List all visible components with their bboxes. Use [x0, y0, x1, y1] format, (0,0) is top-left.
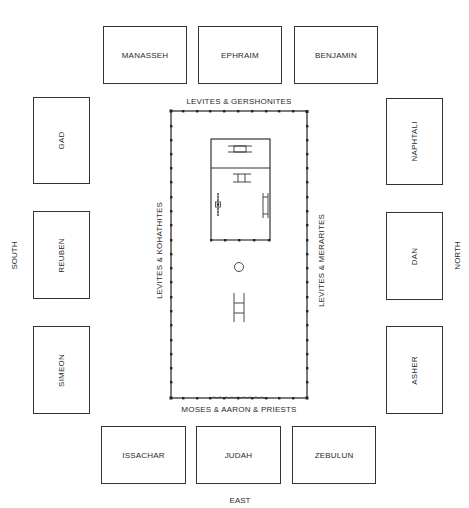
tribe-label: REUBEN [57, 238, 66, 273]
tribe-box-asher: ASHER [386, 326, 443, 414]
direction-south: SOUTH [10, 241, 19, 269]
levites-south-label-wrap: LEVITES & KOHATHITES [155, 180, 165, 320]
tribe-box-naphtali: NAPHTALI [386, 98, 443, 185]
altar-of-burnt-offering [234, 293, 244, 322]
levites-north-label: LEVITES & MERARITES [318, 213, 327, 306]
courtyard-fence [171, 111, 307, 398]
tribe-box-benjamin: BENJAMIN [294, 26, 378, 84]
tribe-box-gad: GAD [33, 97, 90, 184]
levites-west-label: LEVITES & GERSHONITES [171, 97, 307, 106]
altar-of-incense [233, 174, 251, 182]
direction-east: EAST [200, 496, 280, 505]
table-of-showbread [263, 193, 268, 218]
tribe-label: SIMEON [57, 354, 66, 387]
ark-of-covenant [228, 146, 252, 152]
direction-north: NORTH [453, 241, 462, 269]
tribe-box-reuben: REUBEN [33, 211, 90, 299]
levites-east-label: MOSES & AARON & PRIESTS [171, 405, 307, 414]
laver [235, 263, 244, 272]
tribe-box-manasseh: MANASSEH [103, 26, 187, 84]
tribe-label: EPHRAIM [221, 51, 259, 60]
tribe-label: ZEBULUN [315, 451, 354, 460]
tribe-box-issachar: ISSACHAR [101, 426, 186, 484]
direction-south-wrap: SOUTH [8, 235, 20, 275]
levites-north-label-wrap: LEVITES & MERARITES [317, 190, 327, 330]
tribe-box-ephraim: EPHRAIM [198, 26, 282, 84]
tribe-label: DAN [410, 247, 419, 265]
tribe-label: NAPHTALI [410, 121, 419, 161]
direction-north-wrap: NORTH [451, 235, 463, 275]
levites-south-label: LEVITES & KOHATHITES [156, 201, 165, 298]
tribe-label: GAD [57, 132, 66, 150]
tribe-box-simeon: SIMEON [33, 326, 90, 414]
tribe-box-dan: DAN [386, 212, 443, 300]
tribe-label: BENJAMIN [315, 51, 357, 60]
tribe-label: ASHER [410, 356, 419, 385]
tribe-box-zebulun: ZEBULUN [292, 426, 376, 484]
tribe-box-judah: JUDAH [196, 426, 281, 484]
tribe-label: JUDAH [225, 451, 253, 460]
tribe-label: MANASSEH [122, 51, 169, 60]
tabernacle [211, 139, 270, 240]
tribe-label: ISSACHAR [122, 451, 165, 460]
fence-posts [170, 110, 309, 400]
